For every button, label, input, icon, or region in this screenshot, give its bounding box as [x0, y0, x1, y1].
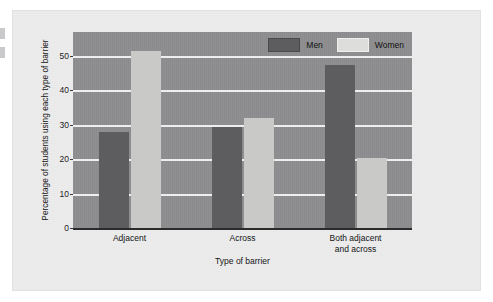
- bar-men-2: [325, 65, 355, 228]
- x-axis-baseline: [73, 228, 412, 230]
- y-axis-tick-label: 30: [60, 120, 69, 130]
- x-axis-category-line: Both adjacent: [296, 233, 416, 244]
- y-axis-tick-label: 20: [60, 154, 69, 164]
- y-axis-title: Percentage of students using each type o…: [40, 35, 51, 225]
- bar-men-0: [99, 132, 129, 228]
- legend: Men Women: [268, 38, 404, 52]
- x-axis-category-line: Adjacent: [70, 233, 190, 244]
- legend-swatch-men-icon: [268, 38, 300, 52]
- legend-item-women: Women: [337, 38, 404, 52]
- legend-swatch-women-icon: [337, 38, 369, 52]
- legend-item-men: Men: [268, 38, 323, 52]
- bar-men-1: [212, 127, 242, 228]
- bar-women-2: [357, 158, 387, 228]
- plot-area: 01020304050 Men Women: [73, 32, 412, 228]
- bars-group: [73, 32, 412, 228]
- binding-mark-top: [0, 28, 5, 39]
- y-axis-tick-label: 50: [60, 51, 69, 61]
- x-axis-category-line: and across: [296, 244, 416, 255]
- bar-women-1: [244, 118, 274, 228]
- bar-chart: Percentage of students using each type o…: [13, 11, 480, 290]
- binding-mark-bottom: [0, 47, 5, 58]
- x-axis-category-label-1: Across: [183, 233, 303, 244]
- y-axis-tick-label: 0: [64, 223, 69, 233]
- x-axis-category-label-0: Adjacent: [70, 233, 190, 244]
- figure-container: Percentage of students using each type o…: [0, 0, 493, 302]
- y-axis-title-wrap: Percentage of students using each type o…: [30, 32, 60, 228]
- x-axis-title: Type of barrier: [73, 256, 412, 266]
- legend-label-men: Men: [306, 40, 323, 50]
- bar-women-0: [131, 51, 161, 228]
- x-axis-category-label-2: Both adjacentand across: [296, 233, 416, 255]
- y-axis-tick-label: 40: [60, 85, 69, 95]
- y-axis-tick-label: 10: [60, 189, 69, 199]
- legend-label-women: Women: [375, 40, 404, 50]
- x-axis-category-line: Across: [183, 233, 303, 244]
